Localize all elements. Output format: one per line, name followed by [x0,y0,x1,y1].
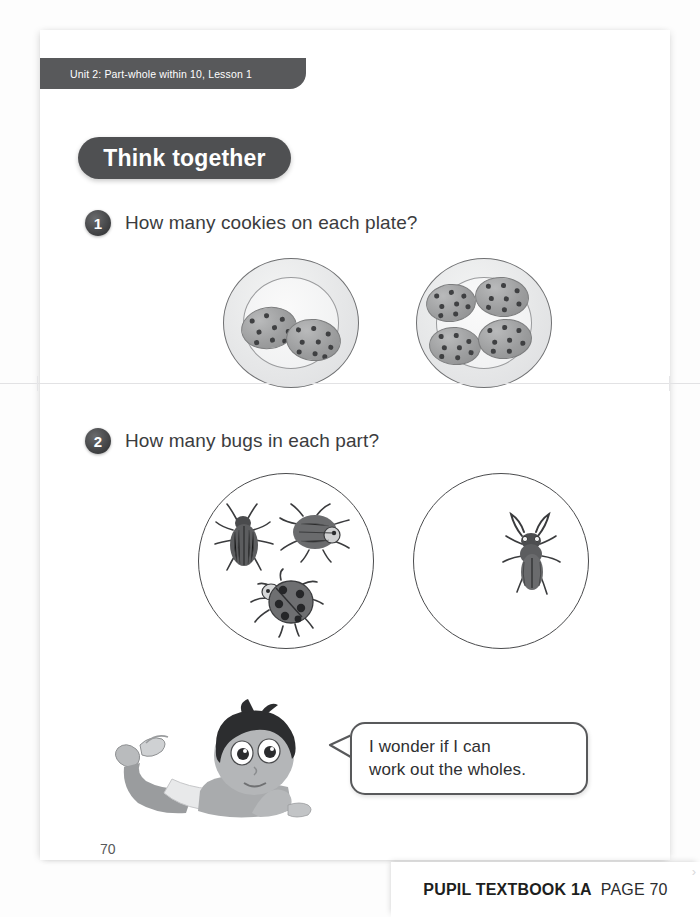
question-2-text: How many bugs in each part? [125,430,379,452]
speech-line-1: I wonder if I can [369,736,491,759]
footer-page-label: PAGE 70 [601,881,668,899]
footer-book-title: PUPIL TEXTBOOK 1A [423,881,591,899]
question-2-number-badge: 2 [85,428,111,454]
crop-mark-right [669,376,670,391]
stag-beetle-icon [498,510,564,602]
character-illustration [102,693,342,833]
chevron-right-icon: › [692,864,696,879]
question-1-row: 1 How many cookies on each plate? [85,210,418,236]
question-1-number-badge: 1 [85,210,111,236]
bug-part-circle-left [198,473,374,649]
question-2-number: 2 [94,433,102,450]
question-2-row: 2 How many bugs in each part? [85,428,379,454]
textbook-page-sheet: Unit 2: Part-whole within 10, Lesson 1 T… [40,30,670,860]
ladybird-icon [249,568,327,638]
footer-reference-bar: PUPIL TEXTBOOK 1A PAGE 70 › [391,862,700,917]
section-title-label: Think together [103,145,266,172]
page-number: 70 [100,841,116,857]
unit-tab-label: Unit 2: Part-whole within 10, Lesson 1 [70,68,252,80]
question-1-number: 1 [94,215,102,232]
crop-mark-left [37,376,38,391]
spread-divider-line [0,383,700,384]
speech-bubble: I wonder if I can work out the wholes. [350,722,588,795]
beetle-icon [213,500,279,572]
speech-line-2: work out the wholes. [369,759,526,782]
section-title-pill: Think together [78,137,291,179]
cookie-plate-left [223,258,359,388]
cookie-plate-right [416,258,552,388]
beetle-icon [277,502,355,564]
plate-rim-icon [416,258,552,388]
question-1-text: How many cookies on each plate? [125,212,418,234]
plate-rim-icon [223,258,359,388]
unit-lesson-tab: Unit 2: Part-whole within 10, Lesson 1 [40,58,306,89]
bug-part-circle-right [413,473,589,649]
